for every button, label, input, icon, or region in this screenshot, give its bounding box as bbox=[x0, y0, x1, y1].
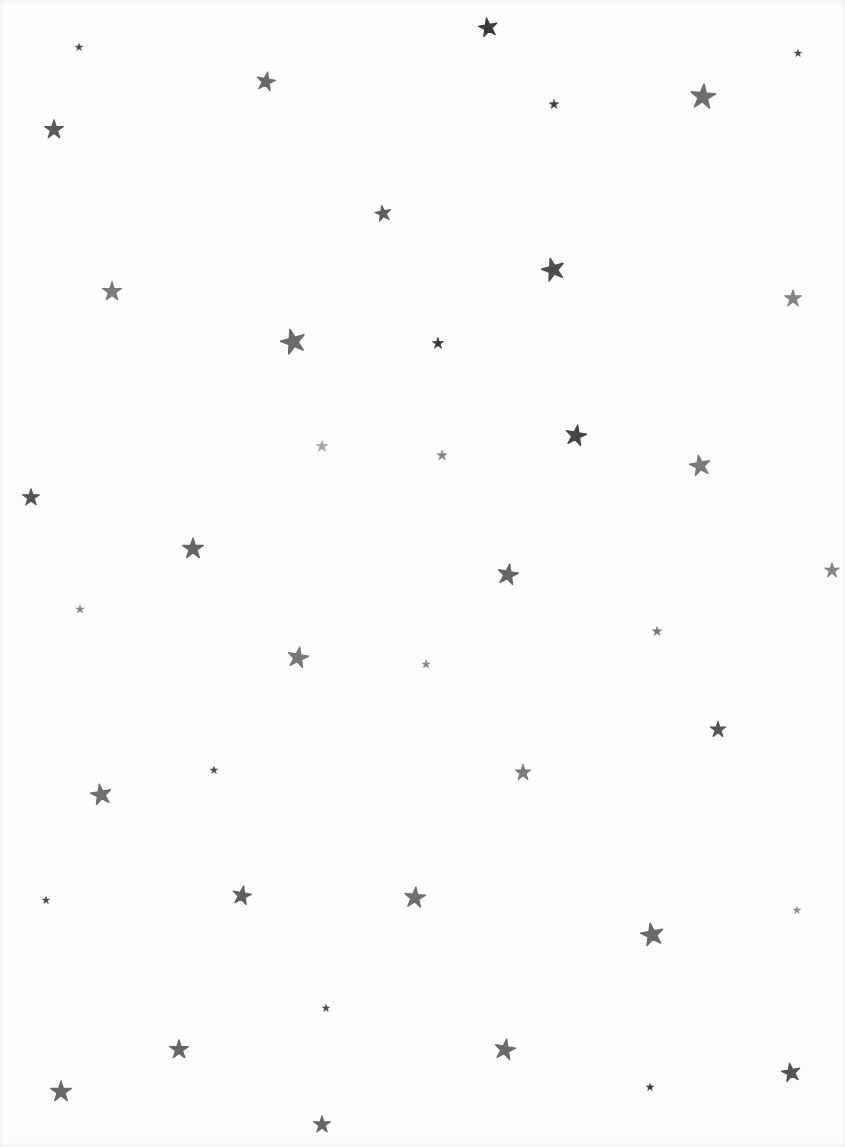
star-icon bbox=[652, 626, 662, 636]
star-icon bbox=[687, 452, 712, 477]
star-icon bbox=[549, 99, 559, 109]
star-icon bbox=[277, 325, 309, 357]
star-icon bbox=[102, 281, 122, 301]
star-icon bbox=[403, 885, 427, 909]
star-icon bbox=[230, 883, 253, 906]
star-icon bbox=[824, 562, 840, 578]
star-icon bbox=[538, 254, 567, 283]
star-icon bbox=[169, 1039, 189, 1059]
star-icon bbox=[88, 781, 113, 806]
star-icon bbox=[432, 337, 444, 349]
star-icon bbox=[316, 440, 328, 452]
star-icon bbox=[76, 605, 85, 614]
star-icon bbox=[182, 537, 204, 559]
star-icon bbox=[779, 1060, 802, 1083]
star-icon bbox=[563, 422, 588, 447]
star-icon bbox=[495, 561, 520, 586]
star-icon bbox=[322, 1004, 330, 1012]
star-icon bbox=[646, 1083, 654, 1091]
star-icon bbox=[437, 450, 448, 461]
star-icon bbox=[793, 906, 801, 914]
star-icon bbox=[44, 119, 64, 139]
paper-background bbox=[0, 0, 845, 1147]
star-icon bbox=[638, 920, 666, 948]
star-icon bbox=[210, 766, 218, 774]
star-icon bbox=[689, 82, 717, 110]
star-icon bbox=[476, 15, 499, 38]
star-icon bbox=[50, 1080, 72, 1102]
star-icon bbox=[42, 896, 50, 904]
star-icon bbox=[75, 43, 83, 51]
star-icon bbox=[710, 721, 727, 738]
star-icon bbox=[254, 69, 277, 92]
star-icon bbox=[492, 1036, 517, 1061]
star-icon bbox=[285, 644, 310, 669]
star-icon bbox=[373, 203, 393, 223]
star-icon bbox=[22, 488, 40, 506]
star-icon bbox=[784, 289, 802, 307]
star-icon bbox=[794, 49, 802, 57]
star-icon bbox=[313, 1115, 331, 1133]
star-icon bbox=[515, 764, 532, 781]
star-icon bbox=[422, 660, 431, 669]
